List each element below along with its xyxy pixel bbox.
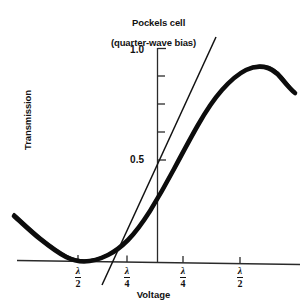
axis-group <box>17 48 300 265</box>
data-curve-group <box>14 66 295 262</box>
plot-canvas <box>0 0 307 306</box>
x-axis-line <box>17 261 300 265</box>
figure-root: Pockels cell (quarter-wave bias) Transmi… <box>0 0 307 306</box>
transmission-curve-texture <box>14 66 295 261</box>
transmission-curve <box>14 67 295 262</box>
linear-bias-tangent-line <box>102 37 216 285</box>
tangent-line-group <box>102 37 216 285</box>
y-tick-group <box>158 49 167 161</box>
